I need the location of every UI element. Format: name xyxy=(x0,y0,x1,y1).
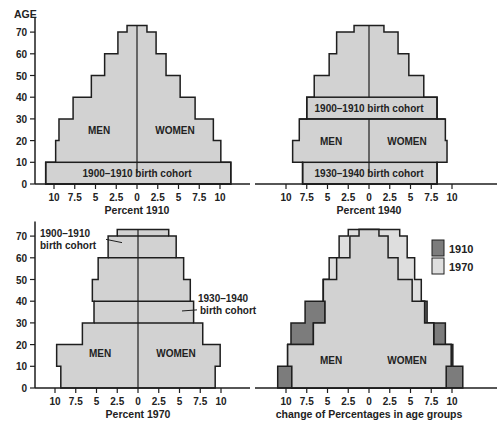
x-tick-label: 10 xyxy=(280,396,292,407)
x-tick-label: 2.5 xyxy=(383,396,397,407)
y-tick-label: 70 xyxy=(16,231,28,242)
x-tick-label: 5 xyxy=(325,396,331,407)
legend-label-1970: 1970 xyxy=(449,261,473,273)
y-tick-label: 10 xyxy=(16,157,28,168)
cohort-label-1930-1940: 1930–1940 birth cohort xyxy=(315,168,425,179)
x-tick-label: 7.5 xyxy=(300,396,314,407)
men-label: MEN xyxy=(320,136,342,147)
x-axis-title: Percent 1970 xyxy=(106,408,171,420)
panel-change-overlay: 107.552.502.557.510change of Percentages… xyxy=(255,230,497,420)
pyramid-shape xyxy=(46,26,231,184)
x-tick-label: 5 xyxy=(94,396,100,407)
y-tick-label: 50 xyxy=(16,71,28,82)
x-tick-label: 7.5 xyxy=(300,192,314,203)
cohort-label-1900-1910: 1900–1910 birth cohort xyxy=(83,168,193,179)
x-tick-label: 5 xyxy=(177,396,183,407)
x-axis-title: Percent 1940 xyxy=(337,204,402,216)
panel-1940-pyramid: 107.552.502.557.510Percent 1940MENWOMEN1… xyxy=(255,26,497,216)
x-tick-label: 7.5 xyxy=(424,396,438,407)
x-tick-label: 0 xyxy=(134,192,140,203)
y-tick-label: 60 xyxy=(16,253,28,264)
x-tick-label: 2.5 xyxy=(110,396,124,407)
x-tick-label: 2.5 xyxy=(383,192,397,203)
x-tick-label: 10 xyxy=(280,192,292,203)
cohort-callout-1930-1940-line2: birth cohort xyxy=(200,305,257,316)
men-label: MEN xyxy=(320,355,342,366)
x-axis-title: Percent 1910 xyxy=(105,204,170,216)
y-tick-label: 70 xyxy=(16,27,28,38)
cohort-label-1900-1910: 1900–1910 birth cohort xyxy=(315,103,425,114)
y-tick-label: 30 xyxy=(16,318,28,329)
x-tick-label: 7.5 xyxy=(192,192,206,203)
legend-swatch-1970 xyxy=(432,258,444,274)
cohort-callout-1930-1940-line1: 1930–1940 xyxy=(198,293,248,304)
y-tick-label: 30 xyxy=(16,114,28,125)
x-axis-title: change of Percentages in age groups xyxy=(276,408,463,420)
legend: 1910 1970 xyxy=(432,240,473,274)
x-tick-label: 2.5 xyxy=(341,396,355,407)
cohort-callout-1900-1910-line2: birth cohort xyxy=(40,240,97,251)
x-tick-label: 5 xyxy=(325,192,331,203)
x-tick-label: 0 xyxy=(135,396,141,407)
x-tick-label: 5 xyxy=(408,396,414,407)
cohort-callout-1900-1910-line1: 1900–1910 xyxy=(40,228,90,239)
population-pyramids-figure: 107.552.502.557.510Percent 1910010203040… xyxy=(0,0,500,427)
y-tick-label: 0 xyxy=(21,179,27,190)
x-tick-label: 5 xyxy=(176,192,182,203)
women-label: WOMEN xyxy=(156,348,195,359)
y-tick-label: 40 xyxy=(16,296,28,307)
x-tick-label: 2.5 xyxy=(109,192,123,203)
x-tick-label: 0 xyxy=(366,192,372,203)
y-tick-label: 10 xyxy=(16,361,28,372)
y-tick-label: 40 xyxy=(16,92,28,103)
x-tick-label: 7.5 xyxy=(68,192,82,203)
men-label: MEN xyxy=(89,348,111,359)
x-tick-label: 2.5 xyxy=(341,192,355,203)
legend-label-1910: 1910 xyxy=(449,243,473,255)
x-tick-label: 10 xyxy=(446,192,458,203)
panel-1910-pyramid: 107.552.502.557.510Percent 1910010203040… xyxy=(14,8,250,216)
x-tick-label: 7.5 xyxy=(424,192,438,203)
x-tick-label: 7.5 xyxy=(69,396,83,407)
women-label: WOMEN xyxy=(387,355,426,366)
x-tick-label: 5 xyxy=(408,192,414,203)
x-tick-label: 2.5 xyxy=(151,192,165,203)
x-tick-label: 10 xyxy=(49,396,61,407)
x-tick-label: 10 xyxy=(214,192,226,203)
x-tick-label: 10 xyxy=(215,396,227,407)
figure-canvas: 107.552.502.557.510Percent 1910010203040… xyxy=(0,0,500,427)
x-tick-label: 2.5 xyxy=(152,396,166,407)
y-tick-label: 50 xyxy=(16,275,28,286)
y-tick-label: 60 xyxy=(16,49,28,60)
x-tick-label: 10 xyxy=(446,396,458,407)
legend-swatch-1910 xyxy=(432,240,444,256)
women-label: WOMEN xyxy=(387,136,426,147)
women-label: WOMEN xyxy=(155,125,194,136)
age-axis-title: AGE xyxy=(14,8,37,20)
y-tick-label: 20 xyxy=(16,340,28,351)
x-tick-label: 5 xyxy=(93,192,99,203)
men-label: MEN xyxy=(88,125,110,136)
panel-1970-pyramid: 107.552.502.557.510Percent 1970010203040… xyxy=(16,222,257,420)
y-tick-label: 20 xyxy=(16,136,28,147)
y-tick-label: 0 xyxy=(21,383,27,394)
x-tick-label: 10 xyxy=(48,192,60,203)
x-tick-label: 7.5 xyxy=(193,396,207,407)
x-tick-label: 0 xyxy=(366,396,372,407)
